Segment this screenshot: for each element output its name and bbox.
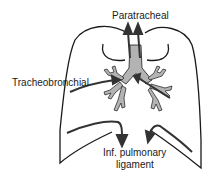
left-bronchial-tree bbox=[104, 66, 126, 111]
left-lung-outline bbox=[60, 26, 127, 163]
label-ligament: ligament bbox=[116, 159, 154, 170]
label-tracheobronchial: Tracheobronchial bbox=[12, 77, 89, 88]
left-apex-curve bbox=[103, 44, 125, 60]
right-bronchial-tree bbox=[148, 66, 172, 111]
label-inf-pulmonary: Inf. pulmonary bbox=[103, 147, 166, 158]
right-apex-curve bbox=[147, 44, 168, 60]
label-paratracheal: Paratracheal bbox=[112, 10, 169, 21]
